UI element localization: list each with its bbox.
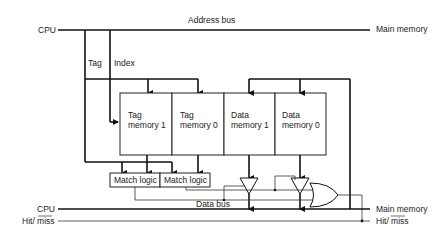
data-memory-0-line1: Data — [282, 110, 300, 120]
tag-memory-0-line1: Tag — [180, 110, 194, 120]
tag-memory-0-line2: memory 0 — [180, 120, 218, 130]
data-memory-1-line1: Data — [231, 110, 249, 120]
buffer-1-enable-wire — [224, 186, 244, 200]
cache-diagram: CPU Address bus Main memory Tag Index Ta… — [0, 0, 446, 241]
tag-label: Tag — [88, 58, 102, 68]
match-logic-1-label: Match logic — [114, 175, 158, 185]
data-memory-0-line2: memory 0 — [282, 120, 320, 130]
main-memory-top-label: Main memory — [376, 24, 428, 34]
tag-memory-1-line1: Tag — [128, 110, 142, 120]
hit-miss-right-label: Hit/ miss — [376, 216, 409, 226]
data-bus-label: Data bus — [196, 199, 230, 209]
hit-miss-left-label: Hit/ miss — [22, 216, 55, 226]
or-gate-icon — [310, 183, 338, 207]
data-memory-1-line2: memory 1 — [231, 120, 269, 130]
index-label: Index — [114, 58, 136, 68]
address-bus-label: Address bus — [188, 15, 235, 25]
match-logic-0-label: Match logic — [164, 175, 208, 185]
main-memory-bottom-label: Main memory — [376, 204, 428, 214]
cpu-bottom-label: CPU — [37, 204, 55, 214]
tri-state-buffer-0-icon — [291, 178, 309, 194]
tag-memory-1-line2: memory 1 — [128, 120, 166, 130]
cpu-top-label: CPU — [38, 25, 56, 35]
